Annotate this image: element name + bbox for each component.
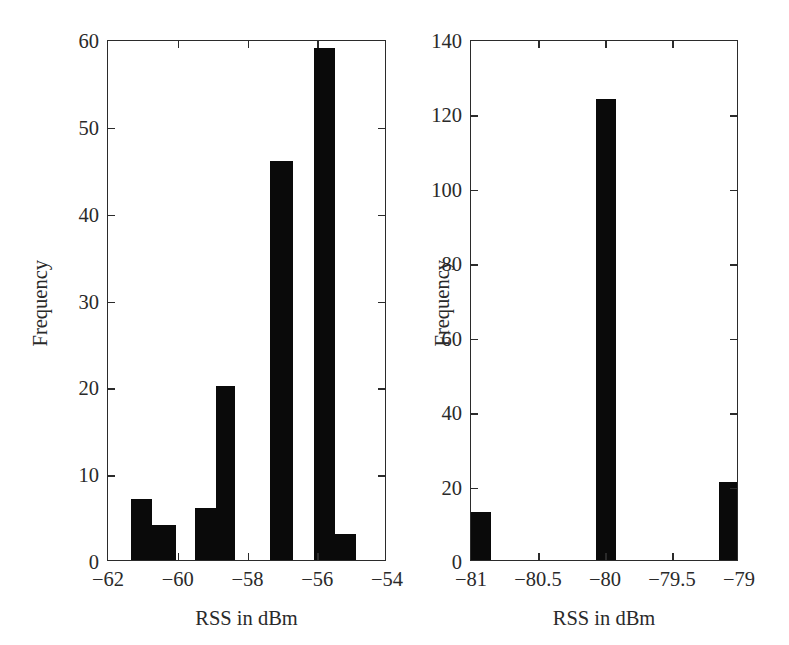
y-tick-mark <box>471 190 478 192</box>
x-tick-mark <box>672 41 674 48</box>
y-tick-mark <box>108 475 115 477</box>
y-tick-label: 120 <box>431 105 462 126</box>
histogram-bar <box>195 508 216 560</box>
y-tick-mark <box>471 264 478 266</box>
y-tick-mark <box>378 302 385 304</box>
x-tick-mark <box>672 553 674 560</box>
left-panel: Frequency 0102030405060 −62−60−58−56−54 … <box>0 0 400 645</box>
histogram-bar <box>471 512 491 560</box>
y-tick-label: 60 <box>79 31 100 52</box>
x-tick-label: −60 <box>162 569 194 590</box>
y-tick-label: 100 <box>431 180 462 201</box>
y-tick-mark <box>378 128 385 130</box>
y-tick-mark <box>730 339 737 341</box>
y-tick-mark <box>471 413 478 415</box>
x-tick-mark <box>248 41 250 48</box>
y-tick-mark <box>471 339 478 341</box>
y-tick-label: 30 <box>79 291 100 312</box>
y-tick-label: 20 <box>79 378 100 399</box>
histogram-bar <box>719 482 737 560</box>
left-plot-frame: 0102030405060 −62−60−58−56−54 <box>107 40 386 561</box>
y-tick-mark <box>730 264 737 266</box>
y-tick-mark <box>108 215 115 217</box>
x-tick-mark <box>605 41 607 48</box>
x-tick-label: −79 <box>723 569 755 590</box>
y-tick-mark <box>471 115 478 117</box>
y-tick-mark <box>730 488 737 490</box>
histogram-bar <box>335 534 356 560</box>
histogram-bar <box>216 386 235 560</box>
x-tick-mark <box>178 41 180 48</box>
y-tick-mark <box>378 215 385 217</box>
histogram-bar <box>152 525 176 560</box>
left-y-axis-title: Frequency <box>30 248 51 358</box>
x-tick-mark <box>178 553 180 560</box>
y-tick-label: 80 <box>442 254 463 275</box>
y-tick-label: 40 <box>79 204 100 225</box>
right-plot-frame: 020406080100120140 −81−80.5−80−79.5−79 <box>470 40 738 561</box>
y-tick-label: 140 <box>431 31 462 52</box>
x-tick-mark <box>538 553 540 560</box>
histogram-bar <box>131 499 152 560</box>
x-tick-label: −58 <box>231 569 263 590</box>
y-tick-label: 50 <box>79 118 100 139</box>
histogram-bar <box>596 99 616 560</box>
right-x-axis-title: RSS in dBm <box>470 608 738 629</box>
x-tick-mark <box>538 41 540 48</box>
right-panel: Frequency 020406080100120140 −81−80.5−80… <box>400 0 789 645</box>
y-tick-label: 40 <box>442 403 463 424</box>
x-tick-mark <box>317 553 319 560</box>
x-tick-mark <box>605 553 607 560</box>
y-tick-mark <box>730 190 737 192</box>
x-tick-label: −56 <box>301 569 333 590</box>
y-tick-label: 10 <box>79 465 100 486</box>
x-tick-label: −79.5 <box>648 569 695 590</box>
x-tick-label: −62 <box>92 569 124 590</box>
y-tick-mark <box>471 488 478 490</box>
y-tick-label: 60 <box>442 328 463 349</box>
y-tick-mark <box>108 302 115 304</box>
figure-canvas: Frequency 0102030405060 −62−60−58−56−54 … <box>0 0 789 645</box>
x-tick-mark <box>317 41 319 48</box>
y-tick-mark <box>730 413 737 415</box>
x-tick-label: −80.5 <box>514 569 561 590</box>
y-tick-mark <box>378 475 385 477</box>
left-x-axis-title: RSS in dBm <box>107 608 386 629</box>
y-tick-mark <box>108 388 115 390</box>
y-tick-mark <box>108 128 115 130</box>
y-tick-mark <box>730 115 737 117</box>
y-tick-mark <box>378 388 385 390</box>
x-tick-mark <box>248 553 250 560</box>
x-tick-label: −81 <box>455 569 487 590</box>
histogram-bar <box>314 48 335 560</box>
y-tick-label: 20 <box>442 477 463 498</box>
histogram-bar <box>270 161 293 560</box>
left-bars-layer <box>108 41 385 560</box>
right-bars-layer <box>471 41 737 560</box>
x-tick-label: −80 <box>589 569 621 590</box>
x-tick-label: −54 <box>371 569 403 590</box>
